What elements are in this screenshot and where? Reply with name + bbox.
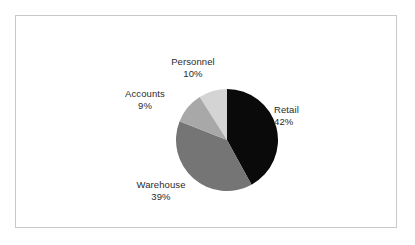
pie-chart-screenshot: Personnel 10% Accounts 9% Retail 42% War… [0,0,415,245]
pie-label-retail-value: 42% [274,116,354,128]
pie-label-accounts-value: 9% [99,100,191,112]
pie-label-warehouse: Warehouse 39% [111,179,211,203]
pie-label-retail-name: Retail [274,104,354,116]
pie-chart-graphic [176,89,278,191]
pie-label-personnel-name: Personnel [147,56,239,68]
pie-svg [176,89,278,191]
pie-label-personnel: Personnel 10% [147,56,239,80]
pie-label-retail: Retail 42% [274,104,354,128]
pie-label-accounts: Accounts 9% [99,88,191,112]
pie-label-warehouse-name: Warehouse [111,179,211,191]
pie-label-personnel-value: 10% [147,68,239,80]
pie-label-warehouse-value: 39% [111,191,211,203]
chart-frame: Personnel 10% Accounts 9% Retail 42% War… [15,15,397,228]
pie-label-accounts-name: Accounts [99,88,191,100]
